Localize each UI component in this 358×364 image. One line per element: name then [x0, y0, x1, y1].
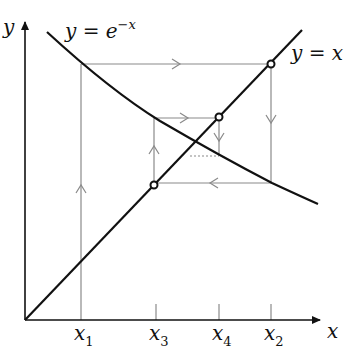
cobweb-diagram: y x y = e−x y = x x1 x3 x4 x2	[0, 0, 358, 364]
tick-label-x4: x4	[212, 321, 232, 349]
cobweb-path	[81, 64, 271, 320]
exp-curve-label: y = e−x	[64, 17, 137, 43]
tick-label-x2: x2	[264, 321, 284, 349]
tick-label-x1: x1	[74, 321, 94, 349]
axes	[25, 22, 320, 320]
identity-line	[25, 30, 302, 320]
tick-labels: x1 x3 x4 x2	[74, 321, 284, 349]
tick-label-x3: x3	[149, 321, 169, 349]
identity-line-label: y = x	[290, 41, 343, 65]
diagram-svg: y x y = e−x y = x x1 x3 x4 x2	[0, 0, 358, 364]
x-axis-label: x	[327, 319, 338, 343]
y-axis-label: y	[2, 15, 15, 39]
cobweb-arrows	[76, 59, 276, 193]
